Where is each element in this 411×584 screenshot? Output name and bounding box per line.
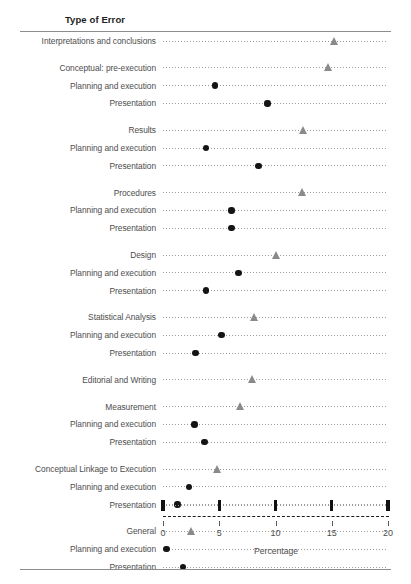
- row-label: Planning and execution: [0, 542, 156, 556]
- dot-icon: [218, 332, 224, 338]
- row-label: Results: [0, 123, 156, 137]
- chart-row: Planning and execution: [0, 417, 411, 431]
- row-dotted-track: [163, 272, 388, 273]
- row-label: Presentation: [0, 284, 156, 298]
- x-axis-title: Percentage: [163, 546, 389, 556]
- chart-row: Editorial and Writing: [0, 373, 411, 387]
- row-dotted-track: [163, 192, 388, 193]
- tick-label: 10: [261, 528, 291, 538]
- chart-row: Conceptual: pre-execution: [0, 61, 411, 75]
- chart-row: Presentation: [0, 284, 411, 298]
- row-label: Planning and execution: [0, 141, 156, 155]
- row-dotted-track: [163, 406, 388, 407]
- axis-block-mark: [330, 500, 333, 511]
- triangle-icon: [299, 126, 307, 134]
- row-label: Planning and execution: [0, 79, 156, 93]
- triangle-icon: [298, 188, 306, 196]
- chart-row: Presentation: [0, 159, 411, 173]
- tick-label: 5: [204, 528, 234, 538]
- axis-marker-band: [0, 498, 411, 512]
- tick-mark: [332, 521, 333, 526]
- error-type-dot-chart: Type of Error Interpretations and conclu…: [0, 0, 411, 584]
- dot-icon: [203, 287, 209, 293]
- row-dotted-track: [163, 165, 388, 166]
- tick-mark: [219, 521, 220, 526]
- dot-icon: [228, 207, 234, 213]
- row-label: Presentation: [0, 560, 156, 574]
- dot-icon: [191, 421, 197, 427]
- column-header-type-of-error: Type of Error: [0, 14, 190, 25]
- tick-mark: [163, 521, 164, 526]
- row-label: Planning and execution: [0, 480, 156, 494]
- row-label: Planning and execution: [0, 203, 156, 217]
- triangle-icon: [236, 402, 244, 410]
- chart-row: Design: [0, 248, 411, 262]
- tick-mark: [388, 521, 389, 526]
- axis-dashed-line: [163, 516, 389, 517]
- dot-icon: [203, 145, 209, 151]
- row-label: Editorial and Writing: [0, 373, 156, 387]
- chart-row: Presentation: [0, 221, 411, 235]
- dot-icon: [192, 350, 198, 356]
- dot-icon: [228, 225, 234, 231]
- row-dotted-track: [163, 228, 388, 229]
- row-label: Planning and execution: [0, 417, 156, 431]
- row-label: Measurement: [0, 400, 156, 414]
- dot-icon: [212, 82, 218, 88]
- tick-label: 0: [148, 528, 178, 538]
- row-dotted-track: [163, 567, 388, 568]
- tick-label: 15: [317, 528, 347, 538]
- header-divider: [20, 31, 391, 32]
- chart-row: Statistical Analysis: [0, 310, 411, 324]
- row-label: Presentation: [0, 96, 156, 110]
- axis-block-mark: [274, 500, 277, 511]
- row-label: Statistical Analysis: [0, 310, 156, 324]
- chart-row: Planning and execution: [0, 203, 411, 217]
- dot-icon: [186, 484, 192, 490]
- row-label: Procedures: [0, 186, 156, 200]
- row-label: Planning and execution: [0, 266, 156, 280]
- row-dotted-track: [163, 148, 388, 149]
- row-dotted-track: [163, 379, 388, 380]
- axis-block-mark: [386, 500, 389, 511]
- row-dotted-track: [163, 67, 388, 68]
- chart-row: Planning and execution: [0, 141, 411, 155]
- dot-icon: [264, 100, 270, 106]
- triangle-icon: [250, 313, 258, 321]
- chart-row: Planning and execution: [0, 266, 411, 280]
- chart-row: Planning and execution: [0, 480, 411, 494]
- dot-icon: [255, 163, 261, 169]
- row-label: Presentation: [0, 159, 156, 173]
- triangle-icon: [330, 37, 338, 45]
- axis-block-mark: [161, 500, 164, 511]
- row-label: Conceptual Linkage to Execution: [0, 462, 156, 476]
- dot-icon: [235, 270, 241, 276]
- row-dotted-track: [163, 41, 388, 42]
- row-dotted-track: [163, 469, 388, 470]
- chart-row: Presentation: [0, 560, 411, 574]
- chart-row: Presentation: [0, 435, 411, 449]
- dot-icon: [201, 439, 207, 445]
- row-label: Presentation: [0, 346, 156, 360]
- axis-block-mark: [218, 500, 221, 511]
- row-label: Planning and execution: [0, 328, 156, 342]
- chart-row: Planning and execution: [0, 328, 411, 342]
- row-dotted-track: [163, 210, 388, 211]
- row-label: Interpretations and conclusions: [0, 34, 156, 48]
- row-dotted-track: [163, 317, 388, 318]
- triangle-icon: [213, 465, 221, 473]
- chart-row: Presentation: [0, 346, 411, 360]
- chart-row: Results: [0, 123, 411, 137]
- chart-row: Procedures: [0, 186, 411, 200]
- row-label: Presentation: [0, 435, 156, 449]
- chart-row: Planning and execution: [0, 79, 411, 93]
- chart-row: Measurement: [0, 400, 411, 414]
- chart-row: Conceptual Linkage to Execution: [0, 462, 411, 476]
- row-dotted-track: [163, 442, 388, 443]
- row-dotted-track: [163, 290, 388, 291]
- chart-row: Presentation: [0, 96, 411, 110]
- row-label: Presentation: [0, 221, 156, 235]
- tick-label: 20: [373, 528, 403, 538]
- row-dotted-track: [163, 103, 388, 104]
- row-dotted-track: [163, 130, 388, 131]
